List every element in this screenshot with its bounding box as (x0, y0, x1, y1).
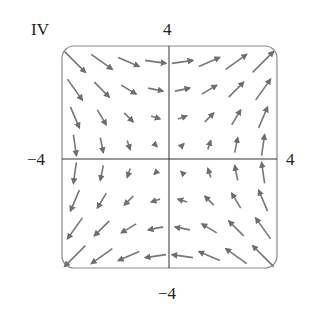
vector-arrow (232, 193, 241, 208)
vector-arrow (253, 51, 274, 72)
vector-arrow (148, 88, 163, 91)
vector-arrow (97, 110, 106, 125)
vector-arrow (118, 252, 139, 261)
vector-arrow (91, 249, 112, 264)
vector-arrow (199, 252, 220, 261)
vector-arrow (127, 168, 130, 177)
vector-arrow (229, 221, 244, 236)
vector-arrow (121, 85, 136, 94)
vector-arrow (235, 165, 238, 180)
vector-arrow (226, 54, 247, 69)
vector-arrow (232, 110, 241, 125)
vector-arrow (259, 107, 268, 128)
vector-arrow (208, 168, 211, 177)
vector-arrow (259, 190, 268, 211)
vector-arrow (151, 116, 160, 119)
vector-arrow (178, 199, 187, 202)
vector-arrow (226, 249, 247, 264)
vector-arrow (256, 218, 271, 239)
vector-arrow (67, 79, 82, 100)
vector-field-plot (0, 0, 310, 323)
vector-arrow (67, 218, 82, 239)
vector-arrow (145, 60, 166, 63)
vector-arrow (70, 107, 79, 128)
vector-arrow (172, 60, 193, 63)
vector-arrow (118, 57, 139, 66)
vector-arrow (262, 135, 265, 156)
vector-arrow (262, 162, 265, 183)
vector-arrow (202, 85, 217, 94)
vector-arrow (70, 190, 79, 211)
vector-arrow (256, 79, 271, 100)
vector-arrow (121, 224, 136, 233)
vector-arrow (124, 196, 133, 205)
vector-arrow (124, 113, 133, 122)
vector-arrow (235, 138, 238, 153)
vector-arrow (91, 54, 112, 69)
vector-arrow (154, 171, 157, 174)
vector-arrow (253, 246, 274, 267)
vector-arrow (64, 51, 85, 72)
vector-arrow (94, 221, 109, 236)
vector-arrow (148, 227, 163, 230)
vector-arrow (172, 255, 193, 258)
vector-arrow (175, 88, 190, 91)
vector-arrow (205, 113, 214, 122)
vector-arrow (64, 246, 85, 267)
vector-arrow (202, 224, 217, 233)
vector-arrow (205, 196, 214, 205)
vector-arrow (145, 255, 166, 258)
vector-arrow (181, 171, 184, 174)
vector-arrow (94, 82, 109, 97)
vector-arrow (73, 135, 76, 156)
vector-arrow (151, 199, 160, 202)
vector-arrow (181, 144, 184, 147)
vector-arrow (229, 82, 244, 97)
vector-arrow (154, 144, 157, 147)
vector-arrow (208, 141, 211, 150)
vector-arrow (100, 165, 103, 180)
vector-arrow (175, 227, 190, 230)
vector-arrow (199, 57, 220, 66)
vector-arrow (73, 162, 76, 183)
vector-arrow (178, 116, 187, 119)
vector-arrow (127, 141, 130, 150)
vector-arrow (100, 138, 103, 153)
vector-arrow (97, 193, 106, 208)
